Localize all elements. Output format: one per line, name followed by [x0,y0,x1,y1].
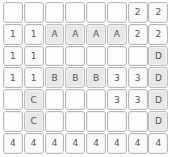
grid-cell[interactable]: 1 [24,67,44,88]
grid-cell[interactable]: B [86,67,106,88]
grid-cell[interactable]: 4 [128,133,148,154]
grid-cell[interactable]: A [65,24,85,45]
grid-cell[interactable]: 4 [86,133,106,154]
grid-cell[interactable]: D [148,89,168,110]
grid-cell[interactable] [86,46,106,67]
grid-cell[interactable]: 1 [24,46,44,67]
grid-cell[interactable]: C [24,111,44,132]
grid-cell[interactable]: 1 [3,67,23,88]
grid-cell[interactable] [86,2,106,23]
grid-cell[interactable] [3,111,23,132]
grid-cell[interactable]: 3 [107,67,127,88]
grid-cell[interactable] [107,2,127,23]
grid-cell[interactable]: 4 [24,133,44,154]
grid-cell[interactable] [45,2,65,23]
grid-cell[interactable]: A [107,24,127,45]
grid-cell[interactable]: D [148,111,168,132]
grid-cell[interactable]: 4 [107,133,127,154]
grid-cell[interactable]: A [45,24,65,45]
grid-cell[interactable] [65,89,85,110]
grid-cell[interactable] [128,111,148,132]
grid-cell[interactable] [65,111,85,132]
grid-cell[interactable]: 4 [45,133,65,154]
grid-cell[interactable]: 2 [148,2,168,23]
grid-cell[interactable] [45,46,65,67]
grid-cell[interactable]: 3 [107,89,127,110]
grid-cell[interactable] [65,2,85,23]
grid-cell[interactable]: 2 [148,24,168,45]
grid-cell[interactable]: 1 [24,24,44,45]
grid-cell[interactable] [45,111,65,132]
grid-cell[interactable]: 4 [65,133,85,154]
grid-cell[interactable]: 1 [3,24,23,45]
grid-cell[interactable] [24,2,44,23]
grid-cell[interactable]: 4 [3,133,23,154]
grid-cell[interactable]: B [65,67,85,88]
grid-cell[interactable] [107,111,127,132]
puzzle-grid: 2211AAAA2211D11BBB33DC33DCD44444444 [3,2,168,154]
grid-cell[interactable] [3,2,23,23]
grid-cell[interactable] [128,46,148,67]
grid-cell[interactable] [107,46,127,67]
grid-cell[interactable]: 3 [128,67,148,88]
grid-cell[interactable]: 2 [128,2,148,23]
grid-cell[interactable] [86,111,106,132]
grid-cell[interactable]: D [148,67,168,88]
grid-cell[interactable]: A [86,24,106,45]
grid-cell[interactable] [86,89,106,110]
grid-cell[interactable]: 3 [128,89,148,110]
grid-cell[interactable] [45,89,65,110]
grid-cell[interactable]: B [45,67,65,88]
grid-cell[interactable]: 2 [128,24,148,45]
grid-cell[interactable] [3,89,23,110]
grid-cell[interactable]: 1 [3,46,23,67]
grid-cell[interactable] [65,46,85,67]
grid-cell[interactable]: D [148,46,168,67]
grid-cell[interactable]: C [24,89,44,110]
grid-cell[interactable]: 4 [148,133,168,154]
